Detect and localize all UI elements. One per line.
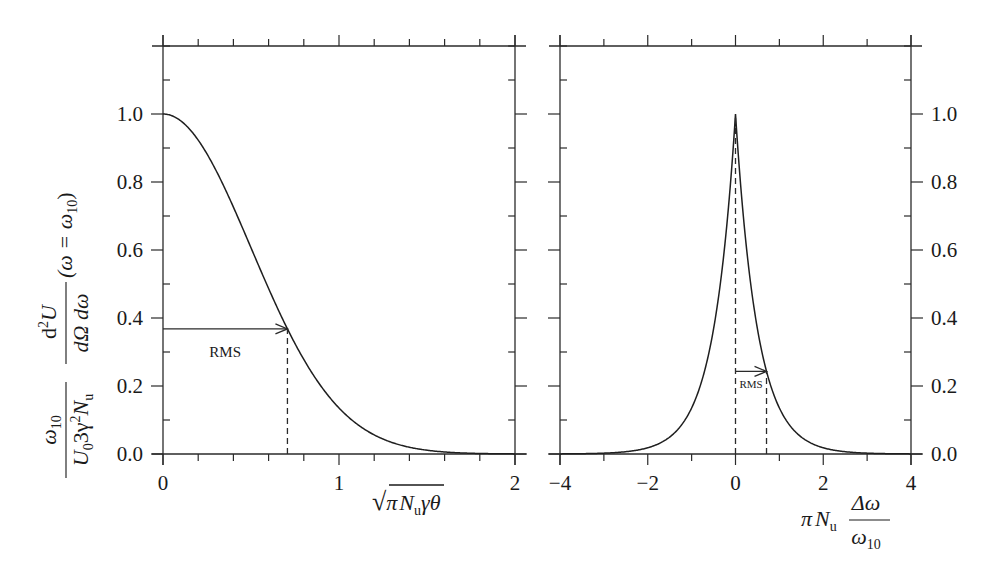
y-tick-label: 1.0 — [117, 102, 143, 126]
y-tick-label: 0.8 — [931, 170, 957, 194]
right-plot-panel: −4−20240.00.20.40.60.81.0RMS — [548, 35, 958, 495]
y-tick-label: 0.4 — [117, 306, 144, 330]
ylabel-frac1-denominator: U03γ2Nu — [68, 394, 96, 466]
ylabel-condition: (ω = ω10) — [52, 192, 80, 278]
right-xlabel-numerator: Δω — [851, 490, 880, 515]
x-tick-label: 1 — [334, 471, 345, 495]
x-tick-label: 4 — [906, 471, 917, 495]
y-tick-label: 0.2 — [931, 374, 957, 398]
data-curve — [163, 114, 515, 454]
y-tick-label: 0.0 — [117, 442, 143, 466]
x-tick-label: −4 — [549, 471, 572, 495]
left-x-axis-label: √πNuγθ — [372, 485, 444, 518]
figure: 0120.00.20.40.60.81.0RMS −4−20240.00.20.… — [0, 0, 991, 577]
rms-label: RMS — [739, 378, 762, 390]
x-tick-label: −2 — [637, 471, 659, 495]
right-xlabel-prefix: πNu — [801, 506, 837, 534]
right-x-axis-label: πNu Δω ω10 — [801, 490, 890, 552]
ylabel-frac2-numerator: d2U — [36, 303, 61, 339]
y-tick-label: 0.6 — [931, 238, 957, 262]
left-xlabel-text: √πNuγθ — [372, 487, 441, 518]
y-tick-label: 0.4 — [931, 306, 958, 330]
y-tick-label: 0.6 — [117, 238, 143, 262]
y-axis-label: ω10 U03γ2Nu d2U dΩ dω (ω = ω10) — [36, 192, 96, 478]
x-tick-label: 2 — [818, 471, 829, 495]
x-tick-label: 0 — [730, 471, 741, 495]
y-tick-label: 1.0 — [931, 102, 957, 126]
chart-canvas: 0120.00.20.40.60.81.0RMS −4−20240.00.20.… — [0, 0, 991, 577]
rms-label: RMS — [209, 344, 241, 360]
right-xlabel-denominator: ω10 — [851, 524, 881, 552]
y-tick-label: 0.2 — [117, 374, 143, 398]
y-tick-label: 0.0 — [931, 442, 957, 466]
ylabel-frac2-denominator: dΩ dω — [68, 294, 93, 353]
x-tick-label: 0 — [158, 471, 169, 495]
x-tick-label: 2 — [510, 471, 521, 495]
left-plot-panel: 0120.00.20.40.60.81.0RMS — [117, 35, 527, 495]
y-tick-label: 0.8 — [117, 170, 143, 194]
ylabel-frac1-numerator: ω10 — [36, 415, 64, 445]
